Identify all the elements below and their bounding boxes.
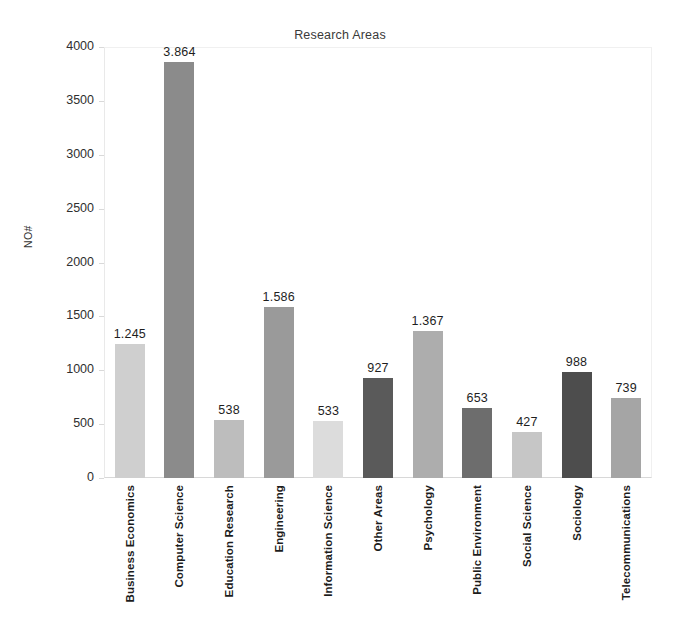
bar-value-label: 1.367 (411, 314, 443, 328)
x-axis-label-slot: Telecommunications (611, 481, 641, 621)
bar-group: 1.586 (264, 47, 294, 478)
x-axis-label-slot: Sociology (562, 481, 592, 621)
bar (462, 408, 492, 478)
x-axis-label-slot: Education Research (214, 481, 244, 621)
y-axis-tick-label: 1000 (66, 362, 94, 376)
x-axis-label-slot: Other Areas (363, 481, 393, 621)
bar (264, 307, 294, 478)
bar-value-label: 538 (218, 403, 239, 417)
bar-group: 927 (363, 47, 393, 478)
bar-value-label: 1.586 (263, 290, 295, 304)
bar-value-label: 427 (516, 415, 537, 429)
bar-group: 427 (512, 47, 542, 478)
x-axis-label-slot: Psychology (413, 481, 443, 621)
bar-value-label: 3.864 (163, 45, 195, 59)
bar-chart: Research Areas NO# 400035003000250020001… (0, 0, 680, 626)
bar (313, 421, 343, 478)
bar-group: 739 (611, 47, 641, 478)
bar-group: 533 (313, 47, 343, 478)
bar-group: 1.245 (115, 47, 145, 478)
chart-title: Research Areas (0, 28, 680, 42)
x-axis-label-text: Telecommunications (620, 485, 632, 600)
x-axis-label-slot: Computer Science (164, 481, 194, 621)
x-axis-label-text: Education Research (223, 485, 235, 597)
x-axis-label-text: Public Environment (471, 485, 483, 595)
bar-value-label: 653 (467, 391, 488, 405)
x-axis-label-slot: Engineering (264, 481, 294, 621)
y-axis-tick-label: 1500 (66, 308, 94, 322)
bar (214, 420, 244, 478)
x-axis-label-slot: Social Science (512, 481, 542, 621)
bar (363, 378, 393, 478)
y-axis-tick-mark (99, 478, 104, 479)
bar-value-label: 988 (566, 355, 587, 369)
x-axis-label-slot: Public Environment (462, 481, 492, 621)
bar (611, 398, 641, 478)
bar-value-label: 1.245 (114, 327, 146, 341)
x-axis-label-slot: Information Science (313, 481, 343, 621)
x-axis-label-slot: Business Economics (115, 481, 145, 621)
y-axis-ticks: 40003500300025002000150010005000 (0, 47, 104, 478)
y-axis-tick-label: 3000 (66, 147, 94, 161)
x-axis-label-text: Psychology (422, 485, 434, 551)
bar-value-label: 533 (318, 404, 339, 418)
bar-group: 1.367 (413, 47, 443, 478)
y-axis-tick-label: 500 (73, 416, 94, 430)
bar (413, 331, 443, 478)
y-axis-tick-label: 0 (87, 470, 94, 484)
bar-value-label: 739 (615, 381, 636, 395)
y-axis-tick-label: 2500 (66, 201, 94, 215)
x-axis-labels: Business EconomicsComputer ScienceEducat… (105, 481, 651, 621)
bar-value-label: 927 (367, 361, 388, 375)
bar (512, 432, 542, 478)
y-axis-tick-label: 3500 (66, 93, 94, 107)
x-axis-label-text: Business Economics (124, 485, 136, 602)
x-axis-label-text: Engineering (273, 485, 285, 553)
x-axis-label-text: Other Areas (372, 485, 384, 552)
y-axis-tick-label: 4000 (66, 39, 94, 53)
bars-container: 1.2453.8645381.5865339271.36765342798873… (105, 47, 651, 478)
bar-group: 653 (462, 47, 492, 478)
y-axis-tick-label: 2000 (66, 255, 94, 269)
bar-group: 988 (562, 47, 592, 478)
bar (164, 62, 194, 478)
x-axis-label-text: Sociology (571, 485, 583, 541)
bar (115, 344, 145, 478)
x-axis-label-text: Information Science (322, 485, 334, 597)
x-axis-label-text: Computer Science (173, 485, 185, 588)
bar-group: 538 (214, 47, 244, 478)
bar-group: 3.864 (164, 47, 194, 478)
bar (562, 372, 592, 478)
x-axis-label-text: Social Science (521, 485, 533, 567)
